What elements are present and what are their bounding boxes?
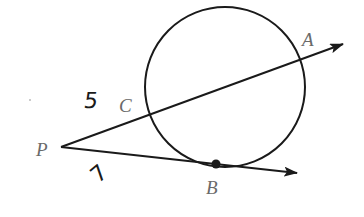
stray-dot bbox=[29, 99, 31, 101]
label-point-A: A bbox=[302, 30, 314, 49]
label-point-B: B bbox=[206, 178, 218, 197]
label-point-P: P bbox=[36, 140, 48, 159]
label-point-C: C bbox=[119, 96, 132, 115]
secant-ray-PA bbox=[61, 44, 343, 147]
diagram-canvas: A C P B 5 7 bbox=[0, 0, 364, 217]
point-B-dot bbox=[212, 160, 221, 169]
